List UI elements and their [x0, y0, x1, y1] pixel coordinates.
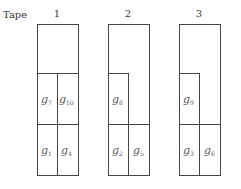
cell-g2: g2	[112, 144, 123, 157]
tape-3-subbox-top	[179, 73, 200, 74]
cell-g3: g3	[183, 144, 194, 157]
tape-1-number: 1	[47, 8, 67, 19]
tape-3-divider-lower	[179, 124, 221, 125]
tape-2-divider-lower	[108, 124, 150, 125]
tape-3-divider-vertical	[199, 73, 200, 176]
cell-g5: g5	[133, 144, 144, 157]
cell-g8: g8	[112, 93, 123, 106]
cell-g7: g7	[41, 93, 52, 106]
cell-g9: g9	[183, 93, 194, 106]
tape-3-number: 3	[189, 8, 209, 19]
tape-2-divider-vertical	[128, 73, 129, 176]
tape-1-divider-vertical	[57, 73, 58, 176]
cell-g1: g1	[41, 144, 52, 157]
tape-2-subbox-top	[108, 73, 129, 74]
cell-g4: g4	[61, 144, 72, 157]
cell-g10: g10	[59, 93, 74, 106]
tape-2-number: 2	[118, 8, 138, 19]
tape-header-label: Tape	[3, 9, 27, 20]
tape-1-divider-upper	[37, 73, 79, 74]
tape-1-divider-lower	[37, 124, 79, 125]
cell-g6: g6	[204, 144, 215, 157]
